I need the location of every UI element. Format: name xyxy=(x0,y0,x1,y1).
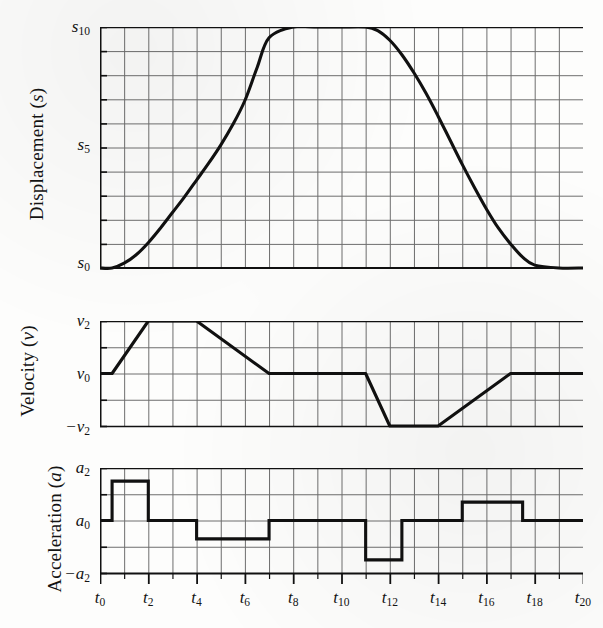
x-tick-label-t6: t6 xyxy=(223,588,267,609)
displacement-axis-title-close: ) xyxy=(26,88,47,95)
velocity-ytick-v0: v0 xyxy=(34,364,90,385)
acceleration-ytick-a2: a2 xyxy=(34,458,90,479)
acceleration-plot xyxy=(100,468,583,586)
x-tick-sub: 10 xyxy=(338,596,350,609)
x-tick-label-t8: t8 xyxy=(271,588,315,609)
x-tick-label-t18: t18 xyxy=(513,588,557,609)
velocity-plot xyxy=(100,321,583,433)
x-tick-sub: 4 xyxy=(196,596,202,609)
displacement-grid xyxy=(100,27,583,268)
x-tick-label-t2: t2 xyxy=(126,588,170,609)
x-tick-sub: 14 xyxy=(435,596,447,609)
x-tick-label-t10: t10 xyxy=(320,588,364,609)
motion-profile-figure: Displacement (s) s10 s5 s0 Velocity (v) xyxy=(0,0,603,628)
acceleration-panel xyxy=(100,468,583,586)
velocity-axis-title-var: v xyxy=(17,332,38,341)
x-tick-sub: 16 xyxy=(483,596,495,609)
x-tick-label-t0: t0 xyxy=(78,588,122,609)
displacement-axis-title-var: s xyxy=(26,94,47,102)
x-tick-label-t20: t20 xyxy=(561,588,603,609)
displacement-ytick-s5: s5 xyxy=(34,135,90,156)
x-tick-sub: 12 xyxy=(386,596,398,609)
x-tick-sub: 8 xyxy=(293,596,299,609)
x-tick-sub: 2 xyxy=(148,596,154,609)
x-tick-sub: 18 xyxy=(531,596,543,609)
displacement-ytick-s10: s10 xyxy=(34,17,90,38)
x-tick-sub: 6 xyxy=(244,596,250,609)
displacement-axis-title-text: Displacement ( xyxy=(26,102,47,220)
x-tick-sub: 20 xyxy=(580,596,592,609)
x-tick-label-t12: t12 xyxy=(368,588,412,609)
displacement-ytick-s0: s0 xyxy=(34,253,90,274)
velocity-panel xyxy=(100,321,583,433)
x-tick-sub: 0 xyxy=(99,596,105,609)
x-tick-label-t14: t14 xyxy=(416,588,460,609)
acceleration-ytick-a0: a0 xyxy=(34,511,90,532)
displacement-plot xyxy=(100,27,583,276)
displacement-panel xyxy=(100,27,583,276)
acceleration-ytick-aneg2: −a2 xyxy=(24,564,90,585)
velocity-ytick-v2: v2 xyxy=(34,311,90,332)
x-tick-label-t16: t16 xyxy=(464,588,508,609)
x-tick-label-t4: t4 xyxy=(175,588,219,609)
